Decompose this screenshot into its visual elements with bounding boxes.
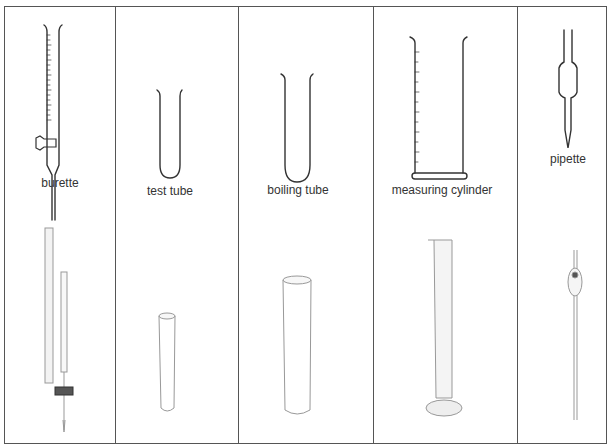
label-measuring-cylinder: measuring cylinder: [392, 183, 493, 197]
burette-drawing: [36, 25, 62, 220]
test-tube-drawing: [157, 90, 182, 178]
label-pipette: pipette: [550, 152, 586, 166]
pipette-drawing: [559, 30, 577, 148]
pipette-photo: [568, 250, 582, 420]
label-test-tube: test tube: [147, 184, 193, 198]
burette-photo: [45, 228, 73, 432]
boiling-tube-photo: [283, 276, 311, 414]
measuring-cylinder-drawing: [410, 37, 467, 179]
measuring-cylinder-photo: [426, 240, 462, 416]
test-tube-photo: [159, 313, 175, 411]
glassware-drawings: [0, 0, 612, 448]
label-boiling-tube: boiling tube: [267, 183, 328, 197]
boiling-tube-drawing: [281, 74, 313, 182]
label-burette: burette: [41, 176, 78, 190]
